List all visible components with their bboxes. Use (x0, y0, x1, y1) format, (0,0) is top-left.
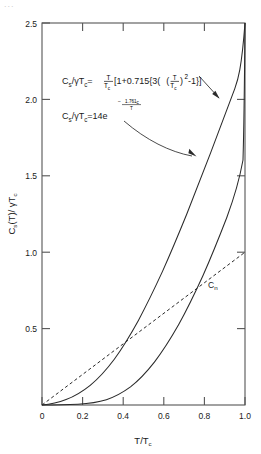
eq-close-bracket: -1}] (188, 76, 202, 86)
y-tick-labels: 2.5 2.0 1.5 1.0 0.5 (25, 19, 37, 335)
x-tick-label: 1.0 (239, 411, 251, 421)
x-tick-label: 0.8 (198, 411, 210, 421)
eq-paren-close: ) (180, 76, 183, 86)
eq-open-bracket: [1+0.715{3( (114, 76, 160, 86)
svg-text:Cs/γTc=: Cs/γTc= (62, 76, 93, 88)
y-tick-label: 2.0 (25, 95, 37, 105)
leader-exponential (124, 121, 197, 157)
y-axis-ticks (42, 23, 245, 329)
x-tick-label: 0.4 (117, 411, 129, 421)
chart-figure: ... (0, 0, 261, 454)
y-tick-label: 1.0 (25, 248, 37, 258)
frac-denominator: Tc (104, 82, 111, 91)
x-tick-labels: 0 0.2 0.4 0.6 0.8 1.0 (40, 411, 252, 421)
equation-exponential: Cs/γTc=14e – 1.761c T (62, 99, 141, 123)
x-axis-title: T/Tc (134, 435, 151, 447)
y-tick-label: 1.5 (25, 171, 37, 181)
frac2-denominator: Tc (170, 82, 177, 91)
y-axis-title: Cs(T)/ γTc (6, 193, 18, 234)
x-tick-label: 0.6 (158, 411, 170, 421)
curve-cn-dashed (42, 252, 245, 405)
exp-denominator: T (130, 106, 133, 111)
svg-text:Cs/γTc=14e: Cs/γTc=14e (62, 111, 108, 123)
equation-polynomial: Cs/γTc= T Tc [1+0.715{3( T Tc ( ) 2 -1}] (62, 73, 202, 91)
chart-svg: 2.5 2.0 1.5 1.0 0.5 0 0.2 0.4 0.6 0.8 1.… (0, 0, 261, 454)
curve-cn-label: Cn (208, 280, 218, 291)
eq-paren-open: ( (166, 76, 169, 86)
y-tick-label: 2.5 (25, 19, 37, 29)
leader-polynomial (199, 76, 220, 99)
y-tick-label: 0.5 (25, 324, 37, 334)
x-tick-label: 0 (40, 411, 45, 421)
frac2-numerator: T (173, 74, 177, 81)
exp-minus: – (118, 99, 121, 104)
x-tick-label: 0.2 (77, 411, 89, 421)
frac-numerator: T (106, 74, 110, 81)
